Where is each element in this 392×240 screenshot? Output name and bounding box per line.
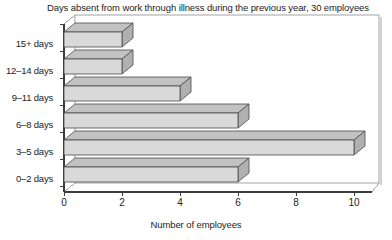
bar-top-face bbox=[64, 50, 133, 59]
bar-front-face bbox=[64, 113, 238, 128]
bar-0-2-days bbox=[64, 158, 249, 182]
bar-front-face bbox=[64, 167, 238, 182]
floor-edge-right bbox=[372, 183, 379, 192]
bar-15-days bbox=[64, 23, 133, 47]
bar-12-14-days bbox=[64, 50, 133, 74]
bar-front-face bbox=[64, 59, 122, 74]
wall-edge-top-left bbox=[64, 15, 75, 24]
bar-front-face bbox=[64, 86, 180, 101]
bar-6-8-days bbox=[64, 104, 249, 128]
floor-edge-left bbox=[64, 183, 75, 192]
bar-3-5-days bbox=[64, 131, 365, 155]
plot-area bbox=[0, 0, 392, 240]
bar-front-face bbox=[64, 140, 354, 155]
bar-chart: Days absent from work through illness du… bbox=[0, 0, 392, 240]
bar-top-face bbox=[64, 131, 365, 140]
bar-top-face bbox=[64, 23, 133, 32]
bar-front-face bbox=[64, 32, 122, 47]
bar-top-face bbox=[64, 158, 249, 167]
bar-top-face bbox=[64, 77, 191, 86]
bar-top-face bbox=[64, 104, 249, 113]
bar-9-11-days bbox=[64, 77, 191, 101]
